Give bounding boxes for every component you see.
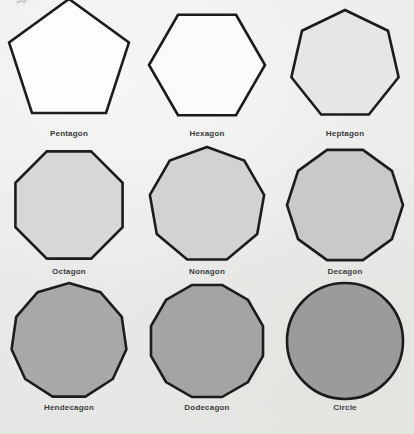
- page-number-cut-off: 36: [16, 0, 27, 5]
- shape-cell-octagon[interactable]: Octagon: [0, 150, 138, 285]
- decagon-shape: [276, 142, 414, 268]
- shape-cell-hendecagon[interactable]: Hendecagon: [0, 285, 138, 434]
- hexagon-shape: [138, 0, 276, 130]
- hendecagon-shape: [0, 278, 138, 404]
- octagon-shape: [0, 142, 138, 268]
- shape-cell-decagon[interactable]: Decagon: [276, 150, 414, 285]
- shape-label: Pentagon: [50, 130, 88, 138]
- shape-cell-pentagon[interactable]: Pentagon: [0, 0, 138, 150]
- shape-cell-nonagon[interactable]: Nonagon: [138, 150, 276, 285]
- circle-shape: [276, 278, 414, 404]
- shape-label: Hendecagon: [44, 404, 94, 412]
- shape-label: Octagon: [52, 268, 86, 276]
- shape-label: Decagon: [327, 268, 362, 276]
- shape-label: Dodecagon: [184, 404, 229, 412]
- shape-label: Hexagon: [189, 130, 224, 138]
- heptagon-shape: [276, 0, 414, 130]
- shape-label: Heptagon: [326, 130, 365, 138]
- pentagon-shape: [0, 0, 138, 130]
- polygon-grid: Pentagon Hexagon Heptagon Octagon Nonago…: [0, 0, 414, 434]
- shape-cell-circle[interactable]: Circle: [276, 285, 414, 434]
- nonagon-shape: [138, 142, 276, 268]
- shape-cell-hexagon[interactable]: Hexagon: [138, 0, 276, 150]
- shape-label: Circle: [333, 404, 356, 412]
- dodecagon-shape: [138, 278, 276, 404]
- shape-cell-heptagon[interactable]: Heptagon: [276, 0, 414, 150]
- shape-label: Nonagon: [189, 268, 225, 276]
- shape-cell-dodecagon[interactable]: Dodecagon: [138, 285, 276, 434]
